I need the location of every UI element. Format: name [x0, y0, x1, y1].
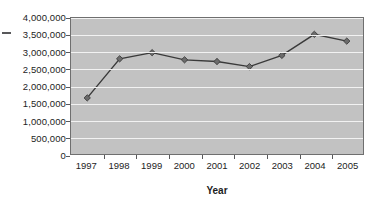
gridline [71, 69, 363, 70]
y-axis-tick-label: 4,000,000 [6, 12, 66, 23]
gridline [71, 87, 363, 88]
x-axis-tick-labels: 199719981999200020012002200320042005 [70, 160, 364, 174]
y-axis-tick [66, 138, 70, 139]
y-axis-tick-label: 3,000,000 [6, 47, 66, 58]
y-axis-tick [66, 156, 70, 157]
y-axis-tick [66, 104, 70, 105]
y-axis-tick [66, 69, 70, 70]
y-axis-tick-label: 2,000,000 [6, 81, 66, 92]
x-axis-tick [136, 155, 137, 159]
x-axis-tick [169, 155, 170, 159]
series-line [87, 34, 347, 98]
x-axis-title: Year [70, 185, 364, 196]
gridline [71, 52, 363, 53]
data-point-marker [181, 57, 187, 63]
y-axis-tick-label: 3,500,000 [6, 29, 66, 40]
y-axis-tick [66, 18, 70, 19]
x-axis-tick [104, 155, 105, 159]
gridline [71, 138, 363, 139]
y-axis-tick [66, 121, 70, 122]
y-axis-tick [66, 52, 70, 53]
gridline [71, 121, 363, 122]
y-axis-tick [66, 35, 70, 36]
y-axis-tick-label: 1,000,000 [6, 116, 66, 127]
y-axis-tick-label: 2,500,000 [6, 64, 66, 75]
x-axis-tick [202, 155, 203, 159]
data-point-marker [214, 58, 220, 64]
x-axis-tick [332, 155, 333, 159]
x-axis-tick-label: 2005 [328, 160, 368, 172]
gridline [71, 35, 363, 36]
y-axis-tick-label: 500,000 [6, 133, 66, 144]
line-chart: 0500,0001,000,0001,500,0002,000,0002,500… [0, 0, 386, 207]
y-axis-tick-label: 0 [6, 150, 66, 161]
gridline [71, 18, 363, 19]
data-point-marker [344, 38, 350, 44]
x-axis-tick [267, 155, 268, 159]
series-markers [84, 31, 350, 101]
y-axis-tick-labels: 0500,0001,000,0001,500,0002,000,0002,500… [6, 11, 66, 163]
x-axis-tick [300, 155, 301, 159]
y-axis-tick-label: 1,500,000 [6, 98, 66, 109]
x-axis-tick [234, 155, 235, 159]
plot-area [70, 17, 364, 155]
gridline [71, 104, 363, 105]
y-axis-tick [66, 87, 70, 88]
